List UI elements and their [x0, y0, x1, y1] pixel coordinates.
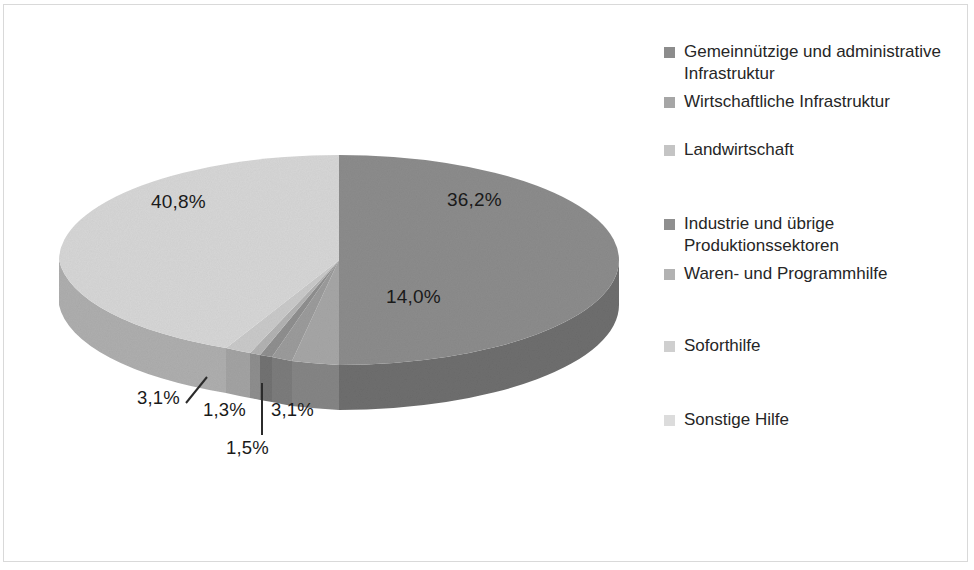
- legend-swatch-icon-6: [664, 415, 675, 426]
- legend-label-0: Gemeinnützige und administrative Infrast…: [684, 41, 969, 85]
- legend-label-5: Soforthilfe: [684, 335, 761, 357]
- legend-item-2[interactable]: Landwirtschaft: [664, 139, 969, 211]
- pie-side-slice-6: [226, 348, 250, 398]
- legend-label-4: Waren- und Programmhilfe: [684, 263, 887, 285]
- data-label-14-0: 14,0%: [386, 286, 441, 308]
- legend-item-3[interactable]: Industrie und übrige Produktionssektoren: [664, 213, 969, 261]
- legend-item-6[interactable]: Sonstige Hilfe: [664, 409, 969, 447]
- legend-label-3: Industrie und übrige Produktionssektoren: [684, 213, 969, 257]
- chart-legend: Gemeinnützige und administrative Infrast…: [664, 41, 969, 449]
- data-label-1-3: 1,3%: [203, 399, 246, 421]
- pie-chart-graphic: [4, 5, 664, 563]
- data-label-36-2: 36,2%: [447, 189, 502, 211]
- legend-swatch-icon-5: [664, 341, 675, 352]
- legend-label-2: Landwirtschaft: [684, 139, 794, 161]
- pie-chart-plot-area: 36,2% 14,0% 40,8% 3,1% 1,3% 3,1% 1,5%: [4, 5, 664, 563]
- legend-label-1: Wirtschaftliche Infrastruktur: [684, 91, 890, 113]
- legend-swatch-icon-3: [664, 219, 675, 230]
- data-label-1-5: 1,5%: [226, 437, 269, 459]
- data-label-40-8: 40,8%: [151, 191, 206, 213]
- legend-label-6: Sonstige Hilfe: [684, 409, 789, 431]
- legend-item-4[interactable]: Waren- und Programmhilfe: [664, 263, 969, 333]
- legend-item-0[interactable]: Gemeinnützige und administrative Infrast…: [664, 41, 969, 89]
- legend-swatch-icon-0: [664, 47, 675, 58]
- legend-swatch-icon-4: [664, 269, 675, 280]
- legend-item-1[interactable]: Wirtschaftliche Infrastruktur: [664, 91, 969, 137]
- legend-swatch-icon-2: [664, 145, 675, 156]
- pie-side-slice-5: [250, 353, 260, 400]
- legend-item-5[interactable]: Soforthilfe: [664, 335, 969, 407]
- legend-swatch-icon-1: [664, 97, 675, 108]
- chart-frame: 36,2% 14,0% 40,8% 3,1% 1,3% 3,1% 1,5% Ge…: [3, 4, 968, 562]
- data-label-3-1-right: 3,1%: [271, 399, 314, 421]
- data-label-3-1-left: 3,1%: [137, 387, 180, 409]
